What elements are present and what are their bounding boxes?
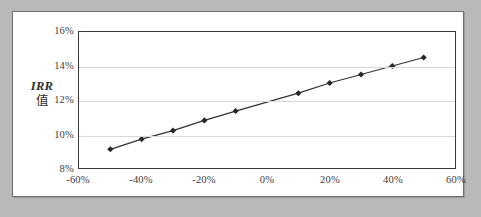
y-axis-tick-label: 8% (40, 164, 74, 174)
x-axis-tick-labels: -60%-40%-20%0%20%40%60% (78, 174, 456, 190)
data-point-marker (421, 54, 427, 60)
gridline (79, 67, 455, 68)
series-svg (79, 32, 455, 168)
data-point-marker (107, 146, 113, 152)
x-axis-tick-label: -20% (180, 174, 228, 185)
data-point-marker (358, 71, 364, 77)
y-axis-tick-label: 12% (40, 95, 74, 105)
data-point-marker (201, 117, 207, 123)
data-point-marker (327, 80, 333, 86)
data-point-marker (170, 128, 176, 134)
gridline (79, 101, 455, 102)
plot-area (78, 31, 456, 169)
y-axis-tick-label: 16% (40, 26, 74, 36)
x-axis-tick-label: -60% (54, 174, 102, 185)
y-axis-tick-label: 14% (40, 61, 74, 71)
x-axis-tick-label: 20% (306, 174, 354, 185)
y-axis-tick-labels: 8%10%12%14%16% (32, 31, 74, 169)
chart-panel: IRR 值 8%10%12%14%16% -60%-40%-20%0%20%40… (12, 11, 464, 197)
chart-figure: IRR 值 8%10%12%14%16% -60%-40%-20%0%20%40… (0, 0, 481, 217)
data-point-marker (295, 90, 301, 96)
x-axis-tick-label: 60% (432, 174, 480, 185)
y-axis-tick-label: 10% (40, 130, 74, 140)
data-point-marker (139, 136, 145, 142)
gridline (79, 136, 455, 137)
x-axis-tick-label: 0% (243, 174, 291, 185)
x-axis-tick-label: 40% (369, 174, 417, 185)
x-axis-tick-label: -40% (117, 174, 165, 185)
data-point-marker (233, 108, 239, 114)
